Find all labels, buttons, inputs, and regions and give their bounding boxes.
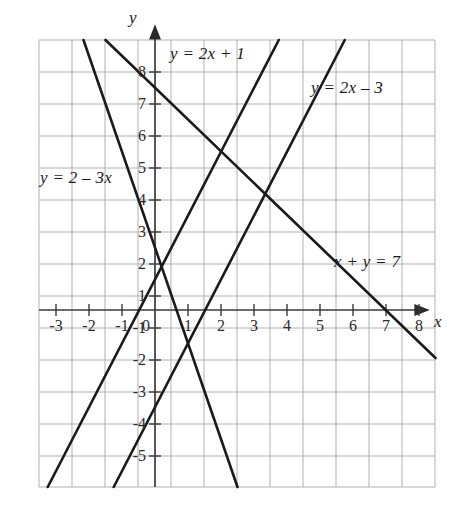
equation-label-line3: y = 2 – 3x bbox=[40, 168, 112, 188]
x-tick-label: 8 bbox=[415, 317, 423, 335]
equation-label-line1: y = 2x + 1 bbox=[170, 44, 245, 64]
y-tick-label: 4 bbox=[130, 191, 146, 209]
equation-label-line2: y = 2x – 3 bbox=[311, 78, 383, 98]
y-tick-label: 8 bbox=[130, 63, 146, 81]
y-tick-label: -3 bbox=[122, 383, 146, 401]
x-tick-label: 1 bbox=[184, 317, 192, 335]
graph-figure: y x y = 2x + 1 y = 2x – 3 y = 2 – 3x x +… bbox=[0, 0, 462, 514]
x-tick-label: 4 bbox=[283, 317, 291, 335]
y-tick-label: 6 bbox=[130, 127, 146, 145]
y-tick-label: 7 bbox=[130, 95, 146, 113]
y-tick-label: -4 bbox=[122, 415, 146, 433]
x-tick-label: 7 bbox=[382, 317, 390, 335]
x-tick-label: 6 bbox=[349, 317, 357, 335]
y-tick-label: -5 bbox=[122, 447, 146, 465]
y-tick-label: 5 bbox=[130, 159, 146, 177]
x-tick-label: 5 bbox=[316, 317, 324, 335]
x-tick-label: 2 bbox=[217, 317, 225, 335]
line-y-equals-2x-minus-3 bbox=[114, 40, 345, 487]
equation-label-line4: x + y = 7 bbox=[334, 252, 400, 272]
line-y-equals-2x-plus-1 bbox=[48, 40, 279, 487]
line-y-equals-2-minus-3x bbox=[84, 40, 238, 487]
x-tick-label: -3 bbox=[49, 317, 62, 335]
y-tick-label: 3 bbox=[130, 223, 146, 241]
y-tick-label: -1 bbox=[122, 319, 146, 337]
x-tick-label: -2 bbox=[82, 317, 95, 335]
y-tick-label: 2 bbox=[130, 255, 146, 273]
x-tick-label: 3 bbox=[250, 317, 258, 335]
y-axis-label: y bbox=[129, 8, 137, 28]
y-tick-label: -2 bbox=[122, 351, 146, 369]
y-tick-label: 1 bbox=[130, 287, 146, 305]
x-axis-label: x bbox=[434, 312, 442, 332]
